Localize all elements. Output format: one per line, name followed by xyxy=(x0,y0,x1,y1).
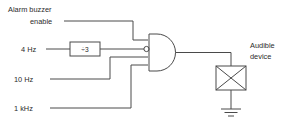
ground-symbol-icon xyxy=(221,109,241,116)
wire-gate-output xyxy=(176,53,232,67)
audible-device xyxy=(216,66,246,90)
inversion-bubble-icon xyxy=(144,46,149,51)
input-4hz-label: 4 Hz xyxy=(21,45,37,54)
wire-10hz-input xyxy=(50,57,148,79)
audible-device-label-line2: device xyxy=(250,52,271,61)
audible-device-label-line1: Audible xyxy=(250,41,275,50)
and-gate xyxy=(144,34,176,71)
divider-block-label: ÷3 xyxy=(81,46,89,53)
wire-alarm-buzzer-enable xyxy=(64,21,148,40)
input-1khz-label: 1 kHz xyxy=(14,104,33,113)
divider-block: ÷3 xyxy=(70,42,100,56)
wire-1khz-input xyxy=(50,65,148,108)
alarm-buzzer-enable-label-line2: enable xyxy=(30,17,52,26)
circuit-diagram: Alarm buzzer enable 4 Hz 10 Hz 1 kHz Aud… xyxy=(0,0,295,127)
alarm-buzzer-enable-label-line1: Alarm buzzer xyxy=(8,5,52,14)
input-10hz-label: 10 Hz xyxy=(14,75,34,84)
